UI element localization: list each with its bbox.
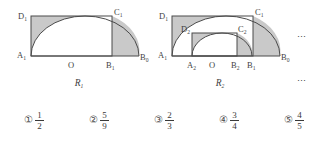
fraction-numerator: 2 [166, 111, 173, 121]
caption-r1: R1 [74, 78, 84, 89]
answer-choice-1[interactable]: ① 1 2 [2, 111, 67, 131]
choice-marker-2: ② [89, 116, 98, 126]
answer-choice-3[interactable]: ③ 2 3 [132, 111, 197, 131]
label-b0-r1: B0 [140, 52, 149, 63]
fraction-denominator: 9 [101, 121, 108, 131]
fraction-numerator: 4 [296, 111, 303, 121]
geometry-diagram: D1 C1 A1 O B1 B0 R1 [0, 0, 328, 100]
choice-marker-3: ③ [154, 116, 163, 126]
label-b1-r2: B1 [247, 60, 256, 71]
label-c1-r2: C1 [255, 7, 264, 18]
fraction-numerator: 3 [231, 111, 238, 121]
label-c2-r2: C2 [238, 24, 247, 35]
choice-marker-1: ① [24, 116, 33, 126]
answer-choice-2[interactable]: ② 5 9 [67, 111, 132, 131]
choice-fraction-4: 3 4 [230, 111, 239, 131]
fraction-numerator: 1 [36, 111, 43, 121]
geometry-figure-area: D1 C1 A1 O B1 B0 R1 [0, 0, 328, 100]
label-b2-r2: B2 [231, 60, 240, 71]
caption-r2: R2 [215, 78, 225, 89]
label-o-r2: O [209, 60, 215, 70]
choice-fraction-1: 1 2 [35, 111, 44, 131]
answer-choice-5[interactable]: ⑤ 4 5 [262, 111, 327, 131]
label-a2-r2: A2 [187, 60, 196, 71]
label-d1-r1: D1 [18, 11, 27, 22]
fraction-denominator: 4 [231, 121, 238, 131]
answer-choice-4[interactable]: ④ 3 4 [197, 111, 262, 131]
shaded-region-right-r1 [112, 16, 139, 56]
label-b1-r1: B1 [106, 60, 115, 71]
choice-fraction-5: 4 5 [295, 111, 304, 131]
answer-choices: ① 1 2 ② 5 9 ③ 2 3 ④ 3 4 ⑤ 4 [0, 100, 328, 141]
label-c1-r1: C1 [114, 7, 123, 18]
label-o-r1: O [68, 60, 74, 70]
fraction-denominator: 5 [296, 121, 303, 131]
label-a1-r2: A1 [158, 50, 167, 61]
choice-fraction-2: 5 9 [100, 111, 109, 131]
shaded-region-left-r1 [31, 16, 85, 56]
figure-r1: D1 C1 A1 O B1 B0 R1 [17, 7, 149, 89]
label-b0-r2: B0 [281, 52, 290, 63]
choice-fraction-3: 2 3 [165, 111, 174, 131]
choice-marker-4: ④ [219, 116, 228, 126]
fraction-denominator: 2 [36, 121, 43, 131]
label-a1-r1: A1 [17, 50, 26, 61]
ellipsis-top: ⋯ [297, 32, 307, 42]
shaded-region-right-inner-r2 [237, 33, 252, 56]
ellipsis-bottom: ⋯ [297, 76, 307, 86]
choice-marker-5: ⑤ [284, 116, 293, 126]
fraction-denominator: 3 [166, 121, 173, 131]
shaded-region-right-outer-r2 [253, 16, 280, 56]
label-d1-r2: D1 [159, 11, 168, 22]
figure-r2: D1 C1 D2 C2 A1 A2 O B2 B [158, 7, 290, 89]
fraction-numerator: 5 [101, 111, 108, 121]
